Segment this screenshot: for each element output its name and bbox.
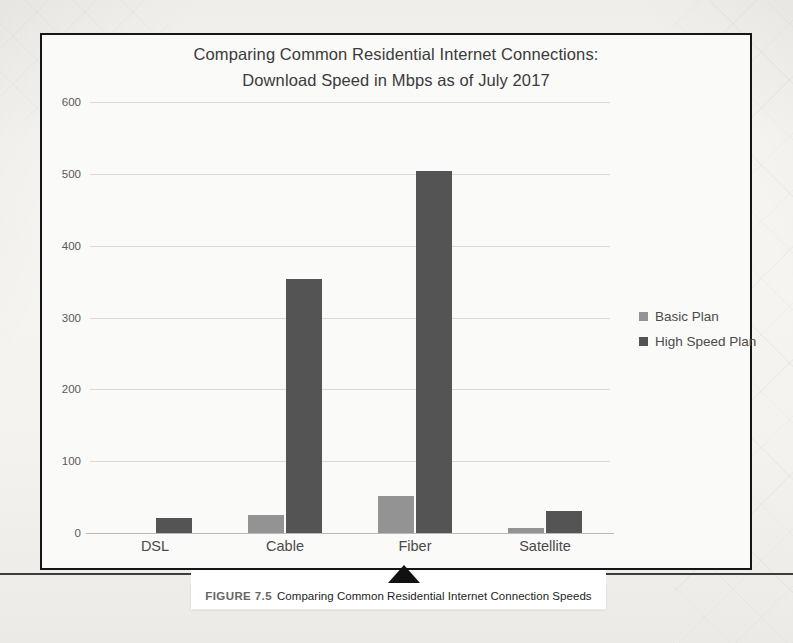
bar-fiber-basic-plan	[378, 496, 414, 534]
chart-frame: Comparing Common Residential Internet Co…	[40, 33, 752, 570]
chart-title: Comparing Common Residential Internet Co…	[42, 41, 750, 93]
x-axis-tick-label-dsl: DSL	[141, 538, 169, 554]
bar-dsl-high-speed-plan	[156, 518, 192, 534]
x-axis-line	[86, 533, 614, 534]
y-axis-tick-label-400: 400	[62, 240, 81, 252]
y-axis-tick-label-600: 600	[62, 96, 81, 108]
y-axis-tick-label-500: 500	[62, 168, 81, 180]
y-axis-tick-label-0: 0	[75, 527, 81, 539]
bar-group-cable	[220, 103, 350, 534]
bar-cable-basic-plan	[248, 515, 284, 534]
bar-satellite-high-speed-plan	[546, 511, 582, 534]
y-axis-tick-label-300: 300	[62, 312, 81, 324]
legend-item-basic-plan: Basic Plan	[639, 305, 756, 327]
legend-swatch-high-speed-plan	[639, 337, 648, 346]
x-axis-tick-labels: DSLCableFiberSatellite	[90, 538, 610, 566]
figure-caption-text: FIGURE 7.5Comparing Common Residential I…	[205, 590, 591, 602]
bar-group-fiber	[350, 103, 480, 534]
bar-group-dsl	[90, 103, 220, 534]
y-axis-tick-label-200: 200	[62, 383, 81, 395]
bar-group-satellite	[480, 103, 610, 534]
figure-caption-body: Comparing Common Residential Internet Co…	[277, 590, 592, 602]
legend-label-basic-plan: Basic Plan	[655, 309, 719, 324]
chart-title-line-1: Comparing Common Residential Internet Co…	[42, 41, 750, 67]
y-axis-tick-label-100: 100	[62, 455, 81, 467]
x-axis-tick-label-fiber: Fiber	[398, 538, 431, 554]
x-axis-tick-label-satellite: Satellite	[519, 538, 571, 554]
legend-swatch-basic-plan	[639, 312, 648, 321]
bars-layer	[90, 103, 610, 534]
x-axis-tick-label-cable: Cable	[266, 538, 304, 554]
plot-area: 0100200300400500600	[90, 103, 610, 534]
chart-title-line-2: Download Speed in Mbps as of July 2017	[42, 67, 750, 93]
bar-fiber-high-speed-plan	[416, 171, 452, 534]
bar-cable-high-speed-plan	[286, 279, 322, 534]
chart-legend: Basic PlanHigh Speed Plan	[639, 305, 756, 355]
figure-number: FIGURE 7.5	[205, 590, 272, 602]
figure-caption: FIGURE 7.5Comparing Common Residential I…	[191, 583, 606, 609]
legend-label-high-speed-plan: High Speed Plan	[655, 334, 756, 349]
legend-item-high-speed-plan: High Speed Plan	[639, 330, 756, 352]
caption-pointer-triangle-icon	[388, 565, 420, 583]
